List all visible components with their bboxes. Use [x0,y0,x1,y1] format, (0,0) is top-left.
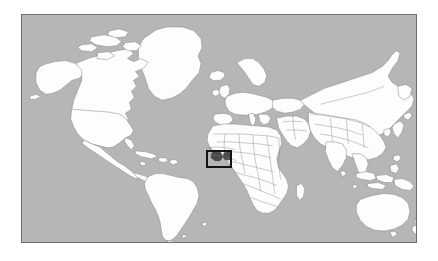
figure-root [0,0,438,261]
world-map-canvas [22,15,416,242]
world-map-frame [21,14,417,243]
study-area-highlight-box [206,150,232,168]
